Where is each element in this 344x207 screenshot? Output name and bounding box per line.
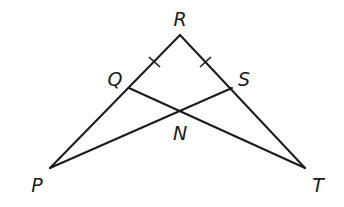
label-T: T <box>312 174 325 196</box>
geometry-diagram: R Q S N P T <box>0 0 344 207</box>
label-Q: Q <box>108 68 123 90</box>
label-R: R <box>173 8 186 30</box>
label-P: P <box>31 174 43 196</box>
label-S: S <box>238 68 250 90</box>
label-N: N <box>173 122 187 144</box>
segment-QT <box>129 88 305 168</box>
segment-RT <box>180 35 305 168</box>
segment-PS <box>50 88 232 168</box>
